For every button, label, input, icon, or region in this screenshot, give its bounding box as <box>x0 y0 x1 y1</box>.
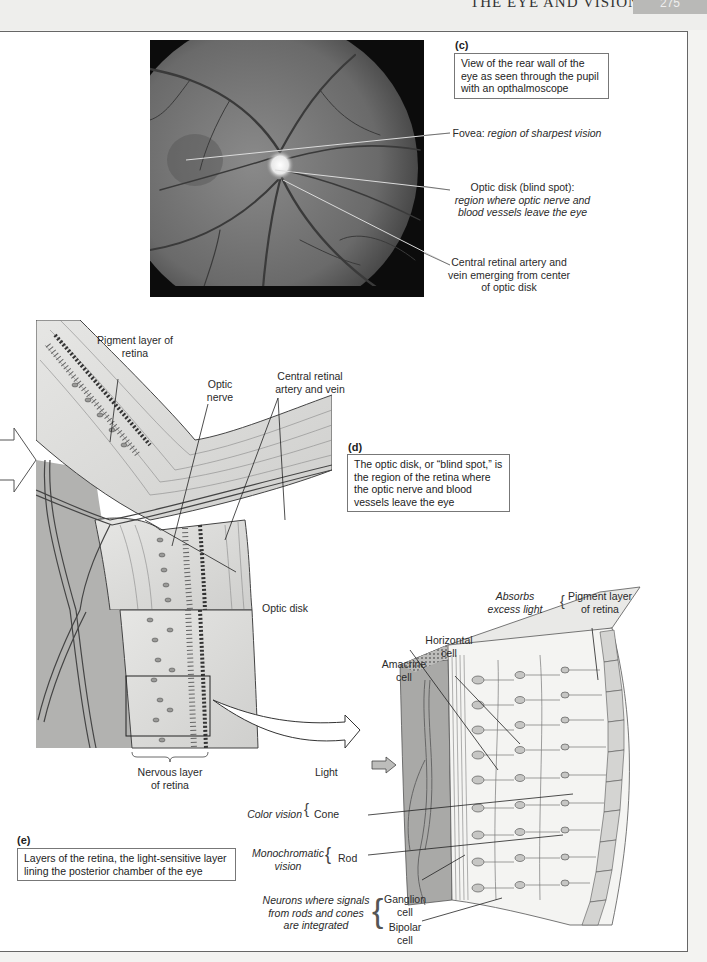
label-optic-disk-blind-spot: Optic disk (blind spot): region where op… <box>450 181 595 219</box>
brace-pigment: { <box>560 588 565 614</box>
label-absorbs-excess-light: Absorbs excess light <box>480 590 550 615</box>
label-bipolar-cell: Bipolar cell <box>383 921 427 946</box>
label-nervous-layer: Nervous layer of retina <box>135 766 205 791</box>
panel-c-caption: View of the rear wall of the eye as seen… <box>454 53 609 99</box>
label-ganglion-cell: Ganglion cell <box>383 893 427 918</box>
label-optic-nerve: Optic nerve <box>200 378 240 403</box>
label-light: Light <box>315 766 338 779</box>
label-monochromatic-vision: Monochromatic vision <box>252 847 324 872</box>
label-pigment-layer-e: Pigment layer of retina <box>566 590 634 615</box>
retina-layers-block <box>368 587 640 925</box>
label-amacrine-cell: Amacrine cell <box>380 658 428 683</box>
label-cone: Cone <box>314 808 339 821</box>
panel-e-letter: (e) <box>17 834 30 846</box>
fundus-photograph <box>118 18 450 318</box>
brace-cone: { <box>304 803 309 816</box>
panel-c-letter: (c) <box>455 39 468 51</box>
label-horizontal-cell: Horizontal cell <box>424 634 474 659</box>
label-rod: Rod <box>338 852 357 865</box>
brace-neurons: { <box>372 890 383 930</box>
panel-e-caption: Layers of the retina, the light-sensitiv… <box>17 848 236 881</box>
label-optic-disk: Optic disk <box>262 602 308 615</box>
label-central-artery-vein-emerging: Central retinal artery and vein emerging… <box>448 256 570 294</box>
brace-rod: { <box>325 848 331 861</box>
label-color-vision: Color vision <box>240 808 302 821</box>
panel-d-letter: (d) <box>348 441 362 453</box>
label-pigment-layer-d: Pigment layer of retina <box>95 334 175 359</box>
label-neurons-integrated: Neurons where signals from rods and cone… <box>262 894 370 932</box>
label-fovea: Fovea: region of sharpest vision <box>452 127 602 140</box>
label-central-retinal-artery-vein: Central retinal artery and vein <box>270 370 350 395</box>
panel-d-caption: The optic disk, or “blind spot,” is the … <box>347 454 510 512</box>
